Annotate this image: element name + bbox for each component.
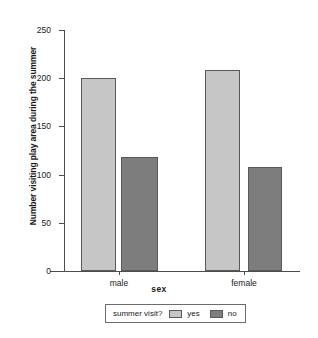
x-tick-mark-female <box>244 271 245 275</box>
y-axis-line <box>64 30 65 271</box>
legend-title: summer visit? <box>113 309 162 318</box>
y-tick-mark-0: 0 <box>59 271 64 272</box>
y-tick-mark-100: 100 <box>59 175 64 176</box>
legend: summer visit? yes no <box>105 304 246 323</box>
bar-chart-figure: Number visiting play area during the sum… <box>0 0 318 338</box>
x-axis-title: sex <box>0 284 318 294</box>
y-tick-label-200: 200 <box>37 73 51 83</box>
legend-label-no: no <box>228 309 237 318</box>
bar-male-yes <box>81 78 116 271</box>
y-tick-mark-150: 150 <box>59 126 64 127</box>
y-axis-title: Number visiting play area during the sum… <box>26 0 40 272</box>
legend-swatch-no-icon <box>210 310 223 318</box>
y-tick-label-250: 250 <box>37 25 51 35</box>
x-axis-line <box>50 271 300 272</box>
y-tick-mark-200: 200 <box>59 78 64 79</box>
y-tick-label-150: 150 <box>37 121 51 131</box>
legend-label-yes: yes <box>187 309 199 318</box>
y-tick-label-0: 0 <box>46 266 51 276</box>
y-tick-label-50: 50 <box>42 218 51 228</box>
y-tick-mark-250: 250 <box>59 30 64 31</box>
y-tick-label-100: 100 <box>37 170 51 180</box>
y-tick-mark-50: 50 <box>59 223 64 224</box>
legend-entry-no: no <box>210 309 237 318</box>
legend-swatch-yes-icon <box>169 310 182 318</box>
legend-entry-yes: yes <box>169 309 199 318</box>
x-tick-mark-male <box>119 271 120 275</box>
plot-area: 250 200 150 100 50 0 male female <box>64 30 300 271</box>
bar-male-no <box>121 157 158 271</box>
bar-female-no <box>248 167 282 271</box>
bar-female-yes <box>205 70 240 272</box>
